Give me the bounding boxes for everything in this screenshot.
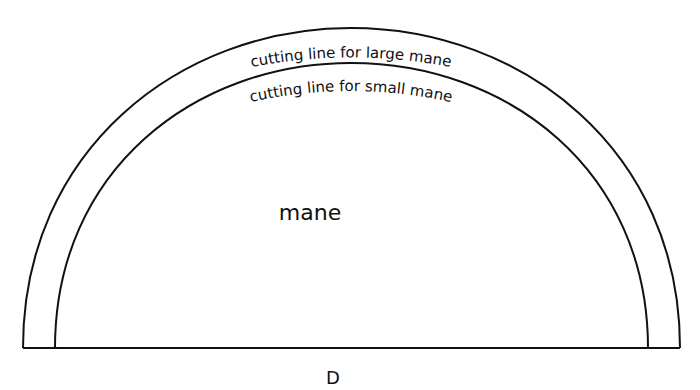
small-mane-cutting-line (55, 63, 648, 348)
outer-label-text: cutting line for large mane (249, 43, 453, 70)
outer-label: cutting line for large mane (249, 43, 453, 70)
center-label: mane (279, 200, 341, 225)
inner-label: cutting line for small mane (248, 77, 454, 106)
mane-pattern-diagram: cutting line for large mane cutting line… (0, 0, 700, 390)
piece-letter: D (326, 367, 340, 388)
large-mane-cutting-line (23, 28, 680, 348)
inner-label-text: cutting line for small mane (248, 77, 454, 106)
